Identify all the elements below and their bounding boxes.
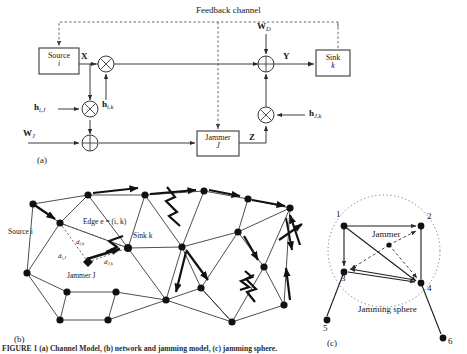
multiplier-jk <box>258 107 274 123</box>
signal-y-label: Y <box>283 52 290 61</box>
adder-wj <box>82 135 98 151</box>
channel-hik-label: hi,k <box>102 100 113 110</box>
panel-c-jammer-marker <box>386 242 391 247</box>
figure-caption: FIGURE 1 (a) Channel Model, (b) network … <box>2 345 465 354</box>
source-box-label: Source i <box>39 52 79 69</box>
panel-b-source-label: Source i <box>8 228 33 236</box>
jammer-box-label: Jammer J <box>197 134 239 151</box>
signal-z-label: Z <box>249 133 255 142</box>
panel-c-node-1-label: 1 <box>336 210 341 219</box>
sink-box-label: Sink k <box>316 54 350 71</box>
panel-b-tag: (b) <box>14 334 25 344</box>
distance-dij-label: di,J <box>58 253 66 261</box>
jamming-sphere-circle <box>328 195 440 307</box>
channel-hij-label: hi,J <box>34 103 45 113</box>
feedback-bus <box>59 22 338 46</box>
signal-wj-label: WJ <box>23 129 35 139</box>
panel-b-jammer-label: Jammer J <box>67 272 96 280</box>
panel-a-graphics <box>28 22 350 156</box>
signal-wd-label: WD <box>257 22 271 32</box>
multiplier-ik <box>98 56 114 72</box>
channel-hjk-label: hJ,k <box>309 109 321 119</box>
panel-b-sink-label: Sink k <box>133 232 152 240</box>
sink-box-line2: k <box>331 61 335 70</box>
panel-c-node-2-label: 2 <box>427 212 432 221</box>
network-flow-arrows <box>33 188 302 300</box>
panel-a-tag: (a) <box>37 155 47 165</box>
figure-container: Feedback channel Source i Sink k Jammer … <box>0 0 467 354</box>
signal-x-label: X <box>81 52 88 61</box>
source-box-line2: i <box>58 59 60 68</box>
adder-wd <box>258 56 274 72</box>
distance-djk-label: dJ,k <box>104 259 113 267</box>
panel-b-edge-label: Edge e = (i, k) <box>83 218 126 226</box>
multiplier-ij <box>82 101 98 117</box>
panel-c-node-4-label: 4 <box>427 284 432 293</box>
jamming-sphere-label: Jamming sphere <box>358 305 417 314</box>
panel-c-node-3-label: 3 <box>341 274 346 283</box>
panel-c-node-5-label: 5 <box>323 324 328 333</box>
jammer-box-line2: J <box>216 141 220 150</box>
panel-c-jammer-label: Jammer <box>372 230 401 239</box>
network-edges <box>27 191 290 322</box>
distance-dik-label: di,k <box>76 239 84 247</box>
feedback-channel-label: Feedback channel <box>196 6 261 15</box>
